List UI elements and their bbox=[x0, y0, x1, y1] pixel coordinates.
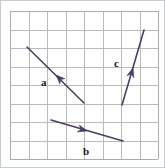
vector-b: b bbox=[51, 120, 123, 157]
vector-diagram-canvas: abc bbox=[0, 0, 165, 168]
vector-a: a bbox=[27, 47, 84, 103]
vector-label-a: a bbox=[41, 76, 47, 88]
grid bbox=[10, 11, 159, 160]
vector-label-c: c bbox=[114, 57, 119, 69]
vector-diagram-figure: abc bbox=[0, 0, 165, 168]
vector-a-shaft bbox=[27, 47, 84, 103]
image-border bbox=[1, 1, 165, 168]
vector-label-b: b bbox=[83, 145, 89, 157]
vector-group: abc bbox=[27, 30, 144, 157]
vector-b-shaft bbox=[51, 120, 123, 141]
